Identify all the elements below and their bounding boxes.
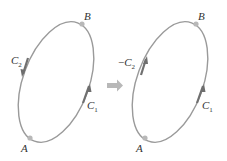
- transition-arrow-icon: [107, 80, 123, 92]
- point-a: [27, 135, 32, 140]
- point-b: [193, 21, 198, 26]
- point-a: [142, 135, 147, 140]
- line-integral-diagram: B A C2 C1 B A −C2 C1: [0, 0, 227, 161]
- label-c1: C1: [87, 99, 98, 114]
- point-b: [79, 21, 84, 26]
- right-panel: B A −C2 C1: [117, 10, 222, 154]
- closed-curve: [117, 12, 222, 153]
- label-neg-c2: −C2: [118, 56, 136, 71]
- closed-curve: [3, 12, 108, 153]
- label-b: B: [198, 10, 205, 22]
- label-a: A: [135, 142, 143, 154]
- label-c1: C1: [202, 99, 213, 114]
- left-panel: B A C2 C1: [3, 10, 108, 154]
- label-c2: C2: [11, 54, 22, 69]
- label-a: A: [20, 142, 28, 154]
- label-b: B: [84, 10, 91, 22]
